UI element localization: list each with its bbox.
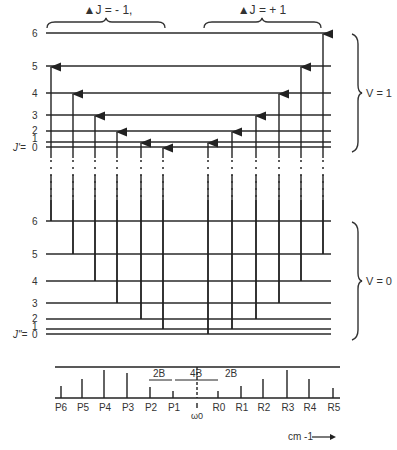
- svg-text:6: 6: [32, 28, 38, 39]
- lower-level-labels: 6 5 4 3 2 1 0 J"=: [12, 216, 38, 340]
- p-branch-brace: [47, 18, 165, 28]
- svg-text:P3: P3: [122, 402, 135, 413]
- svg-text:4: 4: [32, 276, 38, 287]
- upper-level-labels: 6 5 4 3 2 1 0 J'=: [12, 28, 38, 153]
- svg-text:6: 6: [32, 216, 38, 227]
- dotted-gap: [51, 160, 323, 200]
- svg-text:5: 5: [32, 61, 38, 72]
- upper-levels: [46, 33, 331, 147]
- v0-brace: [352, 222, 362, 340]
- v0-label: V = 0: [366, 275, 392, 287]
- svg-text:R1: R1: [236, 402, 249, 413]
- v1-label: V = 1: [366, 87, 392, 99]
- svg-text:5: 5: [32, 249, 38, 260]
- svg-text:J"=: J"=: [12, 329, 28, 340]
- svg-text:J'=: J'=: [12, 142, 26, 153]
- r-branch-transitions: [208, 34, 323, 334]
- svg-text:3: 3: [32, 298, 38, 309]
- svg-text:2B: 2B: [153, 368, 166, 379]
- p-branch-transitions: [51, 67, 163, 329]
- svg-text:4B: 4B: [190, 368, 203, 379]
- svg-text:P1: P1: [168, 402, 181, 413]
- rotation-vibration-diagram: ▲J = - 1, ▲J = + 1 6 5 4 3 2 1 0 J'= 6 5…: [0, 0, 397, 450]
- svg-text:R4: R4: [304, 402, 317, 413]
- svg-text:P6: P6: [55, 402, 68, 413]
- svg-text:P4: P4: [99, 402, 112, 413]
- r-branch-label: ▲J = + 1: [238, 3, 287, 17]
- svg-text:4: 4: [32, 88, 38, 99]
- p-line-labels: P6 P5 P4 P3 P2 P1: [55, 402, 181, 413]
- lower-levels: [46, 221, 331, 334]
- svg-text:P2: P2: [145, 402, 158, 413]
- axis-unit-label: cm -1: [288, 431, 313, 442]
- svg-text:3: 3: [32, 110, 38, 121]
- svg-text:2B: 2B: [225, 368, 238, 379]
- svg-text:0: 0: [32, 142, 38, 153]
- axis-arrow-icon: [312, 434, 336, 440]
- omega0-label: ω0: [191, 411, 203, 421]
- p-branch-label: ▲J = - 1,: [84, 3, 133, 17]
- svg-text:R2: R2: [258, 402, 271, 413]
- transition-mid-segments: [51, 200, 323, 334]
- svg-text:R0: R0: [213, 402, 226, 413]
- svg-text:R5: R5: [328, 402, 341, 413]
- r-line-labels: R0 R1 R2 R3 R4 R5: [213, 402, 341, 413]
- svg-text:0: 0: [32, 329, 38, 340]
- svg-text:P5: P5: [77, 402, 90, 413]
- svg-text:R3: R3: [282, 402, 295, 413]
- spacing-labels: 2B 4B 2B: [153, 368, 238, 379]
- r-branch-brace: [204, 18, 321, 28]
- v1-brace: [352, 34, 362, 152]
